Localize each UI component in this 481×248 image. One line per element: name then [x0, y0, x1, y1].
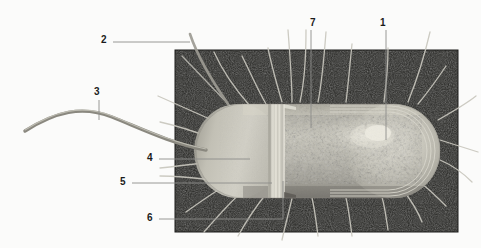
figure-label-1: 1 [380, 18, 386, 28]
figure-label-3: 3 [94, 87, 100, 97]
figure-label-7: 7 [310, 18, 316, 28]
figure-label-5: 5 [120, 177, 126, 187]
bacterium-figure: 1 2 3 4 5 6 7 [0, 0, 481, 248]
bacterium-cell [194, 103, 452, 199]
bacterium-illustration [0, 0, 481, 248]
figure-label-2: 2 [101, 35, 107, 45]
figure-label-6: 6 [147, 213, 153, 223]
figure-label-4: 4 [147, 153, 153, 163]
